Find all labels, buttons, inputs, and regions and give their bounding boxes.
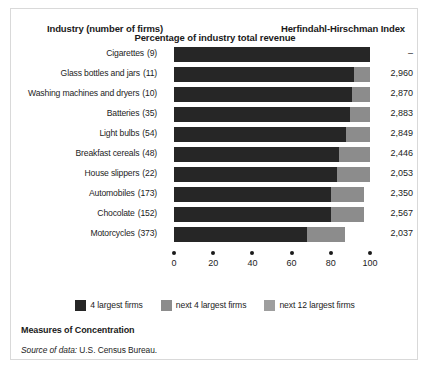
row-industry-name: Washing machines and dryers (28, 88, 139, 98)
row-industry-name: Breakfast cereals (75, 148, 139, 158)
axis-tick-label: 100 (350, 258, 390, 268)
legend-label: 4 largest firms (90, 300, 142, 310)
stacked-bar (174, 187, 370, 202)
chart-row: Cigarettes(9)– (11, 45, 419, 65)
bar-segment-1 (174, 227, 307, 242)
row-label: Glass bottles and jars(11) (11, 68, 157, 78)
stacked-bar (174, 227, 370, 242)
row-firm-count: (10) (142, 88, 157, 98)
row-industry-name: Motorcycles (90, 228, 134, 238)
row-industry-name: Cigarettes (106, 48, 144, 58)
row-firm-count: (54) (142, 128, 157, 138)
row-label: Batteries(35) (11, 108, 157, 118)
row-firm-count: (22) (142, 168, 157, 178)
chart-row: Motorcycles(373)2,037 (11, 225, 419, 245)
row-industry-name: Automobiles (89, 188, 135, 198)
legend-label: next 12 largest firms (279, 300, 354, 310)
stacked-bar (174, 107, 370, 122)
axis-tick-label: 60 (272, 258, 312, 268)
bar-segment-1 (174, 147, 339, 162)
bar-segment-1 (174, 127, 346, 142)
axis-tick-label: 20 (193, 258, 233, 268)
bar-segment-2 (337, 167, 370, 182)
figure-caption: Measures of Concentration (21, 325, 135, 335)
chart-row: Chocolate(152)2,567 (11, 205, 419, 225)
row-firm-count: (173) (138, 188, 157, 198)
chart-row: Light bulbs(54)2,849 (11, 125, 419, 145)
chart-figure: Industry (number of firms) Herfindahl-Hi… (10, 8, 418, 360)
bar-segment-2 (331, 187, 364, 202)
bar-segment-1 (174, 47, 370, 62)
row-hhi-value: – (368, 48, 413, 58)
stacked-bar (174, 87, 370, 102)
legend-swatch-icon (264, 300, 275, 311)
bar-segment-1 (174, 187, 331, 202)
row-hhi-value: 2,960 (368, 68, 413, 78)
stacked-bar (174, 167, 370, 182)
row-industry-name: Glass bottles and jars (61, 68, 140, 78)
bar-segment-1 (174, 107, 350, 122)
row-firm-count: (152) (138, 208, 157, 218)
axis-tick-dot (368, 251, 372, 255)
row-industry-name: Light bulbs (99, 128, 139, 138)
axis-tick-dot (329, 251, 333, 255)
x-axis: 020406080100 (11, 249, 419, 289)
axis-tick-dot (211, 251, 215, 255)
row-hhi-value: 2,567 (368, 208, 413, 218)
chart-row: Glass bottles and jars(11)2,960 (11, 65, 419, 85)
source-prefix: Source of data: (21, 345, 77, 355)
axis-tick-dot (172, 251, 176, 255)
row-firm-count: (373) (138, 228, 157, 238)
row-hhi-value: 2,446 (368, 148, 413, 158)
source-value: U.S. Census Bureau. (79, 345, 157, 355)
row-firm-count: (48) (142, 148, 157, 158)
stacked-bar (174, 127, 370, 142)
row-hhi-value: 2,053 (368, 168, 413, 178)
stacked-bar (174, 47, 370, 62)
row-hhi-value: 2,849 (368, 128, 413, 138)
row-firm-count: (35) (142, 108, 157, 118)
stacked-bar (174, 147, 370, 162)
bar-segment-2 (339, 147, 370, 162)
row-firm-count: (11) (143, 68, 157, 78)
bar-segment-1 (174, 87, 352, 102)
row-label: Cigarettes(9) (11, 48, 157, 58)
bar-segment-1 (174, 67, 354, 82)
figure-source: Source of data: U.S. Census Bureau. (21, 345, 157, 355)
row-industry-name: Chocolate (97, 208, 134, 218)
row-label: Washing machines and dryers(10) (11, 88, 157, 98)
bar-segment-2 (307, 227, 344, 242)
row-hhi-value: 2,037 (368, 228, 413, 238)
row-label: Automobiles(173) (11, 188, 157, 198)
axis-tick-dot (290, 251, 294, 255)
chart-legend: 4 largest firmsnext 4 largest firmsnext … (11, 297, 419, 313)
legend-label: next 4 largest firms (176, 300, 247, 310)
chart-row: Automobiles(173)2,350 (11, 185, 419, 205)
chart-row: Batteries(35)2,883 (11, 105, 419, 125)
legend-item: 4 largest firms (75, 300, 142, 311)
row-hhi-value: 2,350 (368, 188, 413, 198)
plot-area: Cigarettes(9)–Glass bottles and jars(11)… (11, 45, 419, 247)
bar-segment-2 (346, 127, 370, 142)
legend-item: next 4 largest firms (161, 300, 247, 311)
row-label: Chocolate(152) (11, 208, 157, 218)
row-firm-count: (9) (147, 48, 157, 58)
row-label: Breakfast cereals(48) (11, 148, 157, 158)
row-hhi-value: 2,870 (368, 88, 413, 98)
row-industry-name: House slippers (85, 168, 140, 178)
row-label: House slippers(22) (11, 168, 157, 178)
row-label: Motorcycles(373) (11, 228, 157, 238)
legend-swatch-icon (75, 300, 86, 311)
axis-tick-dot (250, 251, 254, 255)
chart-row: Breakfast cereals(48)2,446 (11, 145, 419, 165)
stacked-bar (174, 207, 370, 222)
row-label: Light bulbs(54) (11, 128, 157, 138)
legend-swatch-icon (161, 300, 172, 311)
stacked-bar (174, 67, 370, 82)
bar-segment-2 (331, 207, 364, 222)
bar-segment-1 (174, 207, 331, 222)
chart-row: House slippers(22)2,053 (11, 165, 419, 185)
legend-item: next 12 largest firms (264, 300, 354, 311)
x-axis-title: Percentage of industry total revenue (11, 32, 419, 43)
axis-tick-label: 0 (154, 258, 194, 268)
